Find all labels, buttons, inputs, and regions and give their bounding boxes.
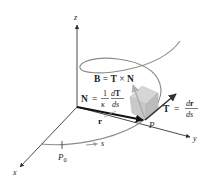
labels: z y x P P0 s r B = T × N N = 1 κ dT ds T… (12, 13, 198, 177)
arc-direction-arrow (86, 144, 96, 145)
svg-text:1: 1 (103, 89, 107, 98)
arc-length-s-label: s (101, 139, 104, 148)
svg-text:=: = (174, 104, 179, 114)
x-axis (20, 107, 77, 167)
point-P-label: P (148, 120, 155, 130)
svg-text:ds: ds (112, 100, 119, 109)
normal-equation: N = 1 κ dT ds (81, 89, 124, 109)
svg-text:dr: dr (186, 99, 194, 108)
svg-text:N: N (81, 94, 88, 104)
point-P0-label: P0 (57, 152, 67, 163)
svg-text:T: T (163, 104, 170, 114)
binormal-equation: B = T × N (94, 74, 134, 84)
svg-text:=: = (92, 94, 97, 104)
y-axis-label: y (192, 134, 197, 143)
svg-text:ds: ds (186, 110, 193, 119)
tangent-equation: T = dr ds (163, 99, 198, 119)
svg-text:κ: κ (101, 100, 105, 109)
svg-text:dT: dT (111, 89, 121, 98)
tnb-frame-diagram: z y x P P0 s r B = T × N N = 1 κ dT ds T… (0, 0, 217, 181)
position-vector-r-label: r (98, 116, 102, 126)
x-axis-label: x (12, 168, 17, 177)
z-axis-label: z (73, 13, 78, 22)
